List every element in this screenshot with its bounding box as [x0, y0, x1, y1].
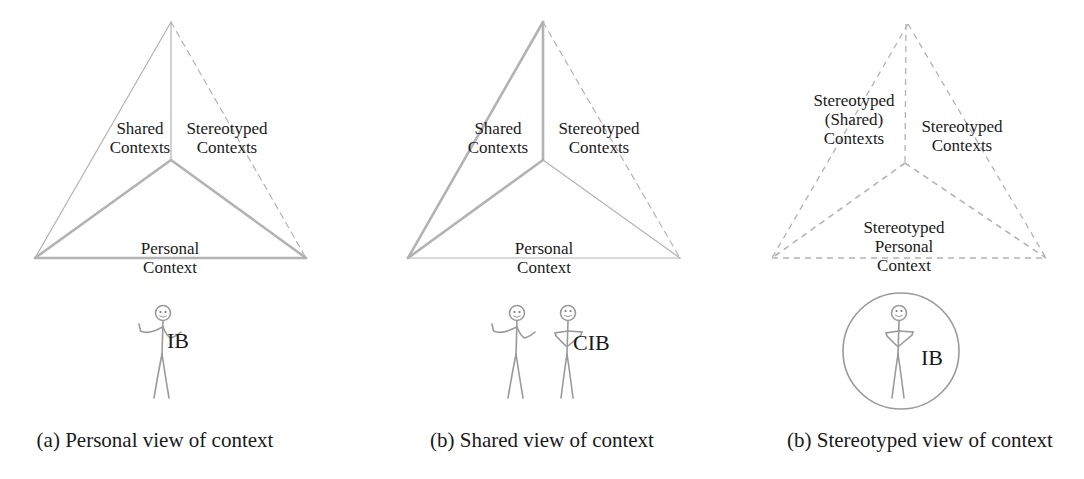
figure-label-c: IB — [921, 347, 943, 369]
label-shared-contexts-a: Shared Contexts — [110, 119, 170, 157]
figure-label-a: IB — [167, 330, 189, 352]
label-stereotyped-personal-context-c: Stereotyped Personal Context — [863, 218, 944, 275]
figure-label-b: CIB — [573, 332, 610, 354]
label-personal-context-a: Personal Context — [141, 239, 200, 277]
label-stereotyped-shared-contexts-c: Stereotyped (Shared) Contexts — [813, 91, 894, 148]
label-stereotyped-contexts-a: Stereotyped Contexts — [186, 119, 267, 157]
caption-a: (a) Personal view of context — [37, 428, 274, 452]
label-stereotyped-contexts-b: Stereotyped Contexts — [558, 119, 639, 157]
stick-figure-shrug-b — [492, 306, 535, 399]
label-stereotyped-contexts-c: Stereotyped Contexts — [921, 117, 1002, 155]
label-shared-contexts-b: Shared Contexts — [468, 119, 528, 157]
label-personal-context-b: Personal Context — [515, 239, 574, 277]
caption-b: (b) Shared view of context — [430, 428, 654, 452]
caption-c: (b) Stereotyped view of context — [787, 428, 1053, 452]
stick-figure-hips-c — [886, 306, 913, 399]
